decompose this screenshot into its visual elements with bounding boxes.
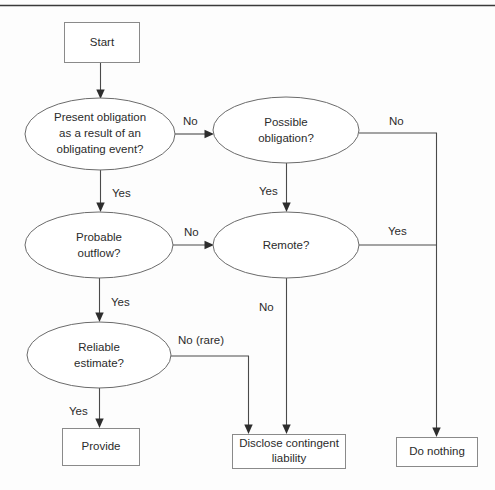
present-obligation-label-line2: as a result of an [59,127,141,139]
node-start[interactable]: Start [65,23,140,63]
edge-possible-yes-to-remote [282,163,290,212]
edge-label-present-no: No [183,115,198,127]
edge-reliable-no-rare-to-disclose [169,356,253,434]
flowchart-svg: Possible obligation --> Probable outflow… [0,0,495,490]
node-present-obligation[interactable]: Present obligation as a result of an obl… [25,98,175,170]
node-do-nothing[interactable]: Do nothing [397,438,478,467]
remote-label: Remote? [263,239,310,251]
do-nothing-label: Do nothing [409,445,465,457]
disclose-label-line2: liability [272,452,307,464]
edge-label-probable-no: No [184,226,199,238]
edge-present-yes-to-probable [96,170,104,212]
edge-probable-no-to-remote [173,241,214,249]
probable-outflow-ellipse-shape [25,212,173,278]
edge-label-probable-yes: Yes [111,296,130,308]
node-remote[interactable]: Remote? [213,212,359,278]
arrowhead-icon [95,313,103,323]
reliable-estimate-ellipse-shape [27,322,171,388]
edge-label-reliable-yes: Yes [69,405,88,417]
arrowhead-icon [95,419,103,429]
probable-outflow-label-line2: outflow? [78,247,121,259]
present-obligation-label-line1: Present obligation [54,111,146,123]
reliable-estimate-label-line1: Reliable [78,341,120,353]
arrowhead-icon [282,203,290,213]
node-provide[interactable]: Provide [63,429,140,466]
possible-obligation-ellipse-shape [213,97,359,163]
reliable-estimate-label-line2: estimate? [74,357,124,369]
possible-obligation-label-line2: obligation? [258,132,314,144]
flowchart-canvas: Possible obligation --> Probable outflow… [0,0,495,490]
arrowhead-icon [432,428,440,438]
provide-label: Provide [82,440,121,452]
edge-label-possible-no: No [389,115,404,127]
node-probable-outflow[interactable]: Probable outflow? [25,212,173,278]
arrowhead-icon [96,203,104,213]
edge-start-to-present-obligation [96,62,104,99]
edge-reliable-yes-to-provide [95,388,103,428]
possible-obligation-label-line1: Possible [264,116,307,128]
present-obligation-label-line3: obligating event? [57,143,144,155]
node-disclose-contingent-liability[interactable]: Disclose contingent liability [233,435,346,469]
disclose-label-line1: Disclose contingent [239,437,340,449]
edge-probable-yes-to-reliable [95,278,103,322]
edge-label-present-yes: Yes [112,187,131,199]
node-reliable-estimate[interactable]: Reliable estimate? [27,322,171,388]
edge-label-possible-yes: Yes [259,185,278,197]
edge-possible-no-to-do-nothing [359,133,441,437]
edge-label-remote-yes: Yes [388,225,407,237]
arrowhead-icon [282,425,290,435]
edge-label-remote-no: No [259,301,274,313]
start-label: Start [90,36,115,48]
arrowhead-icon [244,425,252,435]
edge-present-no-to-possible [175,130,214,138]
node-possible-obligation[interactable]: Possible obligation? [213,97,359,163]
edge-remote-no-to-disclose [282,278,290,434]
edge-label-reliable-no-rare: No (rare) [178,334,224,346]
probable-outflow-label-line1: Probable [76,231,122,243]
